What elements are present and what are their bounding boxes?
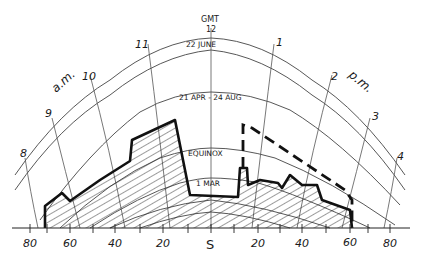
hour-line-8 xyxy=(25,158,38,228)
label-21apr-24aug: 21 APR - 24 AUG xyxy=(179,93,242,102)
az-label-south: S xyxy=(206,237,214,252)
hour-label-8: 8 xyxy=(20,147,27,160)
curve-22-june-inner xyxy=(15,50,405,190)
gmt-label: GMT xyxy=(201,15,219,24)
label-1-mar: 1 MAR xyxy=(196,179,220,188)
sun-path-canvas: 80 60 40 20 S 20 40 60 80 GMT 12 22 JUNE… xyxy=(0,0,423,259)
sun-path-diagram: 80 60 40 20 S 20 40 60 80 GMT 12 22 JUNE… xyxy=(0,0,423,259)
az-label-w40: 40 xyxy=(108,237,122,250)
az-label-w20: 20 xyxy=(156,237,170,250)
existing-obstruction xyxy=(0,0,423,259)
az-label-e60: 60 xyxy=(343,236,357,249)
hour-label-9: 9 xyxy=(45,107,52,120)
hour-label-3: 3 xyxy=(372,110,379,123)
hour-label-11: 11 xyxy=(135,38,149,51)
label-equinox: EQUINOX xyxy=(188,149,223,158)
hour-line-4 xyxy=(384,158,397,228)
az-label-e80: 80 xyxy=(383,237,397,250)
hour-label-4: 4 xyxy=(397,150,404,163)
pm-label: p.m. xyxy=(345,67,375,96)
hour-label-10: 10 xyxy=(82,70,96,83)
noon-label: 12 xyxy=(206,25,216,34)
az-label-e40: 40 xyxy=(295,237,309,250)
am-label: a.m. xyxy=(49,67,78,95)
az-label-w60: 60 xyxy=(63,237,77,250)
az-label-e20: 20 xyxy=(251,237,265,250)
hour-label-2: 2 xyxy=(331,70,338,83)
label-22-june: 22 JUNE xyxy=(186,40,216,49)
az-label-w80: 80 xyxy=(23,237,37,250)
hour-label-1: 1 xyxy=(276,36,283,49)
